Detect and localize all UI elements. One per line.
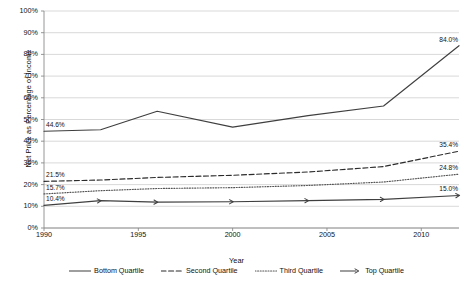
x-tick-label: 2010 [401, 231, 441, 239]
start-value-label-top-quartile: 10.4% [46, 195, 65, 202]
end-value-label-top-quartile: 15.0% [432, 185, 458, 192]
start-value-label-bottom-quartile: 44.6% [46, 121, 65, 128]
legend-label: Bottom Quartile [94, 266, 144, 275]
series-line-third-quartile [44, 174, 459, 194]
legend-item-third-quartile[interactable]: Third Quartile [255, 266, 324, 275]
y-tick-label: 90% [8, 29, 38, 37]
y-tick-label: 80% [8, 50, 38, 58]
legend-item-bottom-quartile[interactable]: Bottom Quartile [69, 266, 144, 275]
x-axis-title: Year [0, 256, 473, 265]
x-tick-label: 1990 [24, 231, 64, 239]
chart-legend: Bottom QuartileSecond QuartileThird Quar… [0, 266, 473, 275]
y-tick-label: 70% [8, 72, 38, 80]
end-value-label-third-quartile: 24.8% [432, 164, 458, 171]
y-tick-label: 40% [8, 137, 38, 145]
start-value-label-second-quartile: 21.5% [46, 171, 65, 178]
chart-container: Net Price as Percentage of Income Year 0… [0, 0, 473, 284]
legend-item-second-quartile[interactable]: Second Quartile [161, 266, 238, 275]
y-tick-label: 30% [8, 159, 38, 167]
y-tick-label: 20% [8, 181, 38, 189]
x-tick-label: 2000 [213, 231, 253, 239]
legend-key-solid-icon [69, 267, 91, 275]
legend-label: Second Quartile [186, 266, 238, 275]
plot-area [0, 0, 473, 284]
y-tick-label: 100% [8, 7, 38, 15]
end-value-label-second-quartile: 35.4% [432, 141, 458, 148]
legend-item-top-quartile[interactable]: Top Quartile [340, 266, 404, 275]
x-tick-label: 1995 [118, 231, 158, 239]
series-line-top-quartile [44, 195, 459, 205]
legend-label: Top Quartile [365, 266, 404, 275]
start-value-label-third-quartile: 15.7% [46, 184, 65, 191]
series-line-second-quartile [44, 151, 459, 181]
legend-key-dotted-icon [255, 267, 277, 275]
legend-label: Third Quartile [280, 266, 324, 275]
legend-key-solid-icon [340, 267, 362, 275]
series-line-bottom-quartile [44, 46, 459, 132]
y-tick-label: 10% [8, 202, 38, 210]
end-value-label-bottom-quartile: 84.0% [432, 36, 458, 43]
x-tick-label: 2005 [307, 231, 347, 239]
y-tick-label: 60% [8, 94, 38, 102]
y-axis-title: Net Price as Percentage of Income [24, 19, 33, 199]
legend-key-dashed-icon [161, 267, 183, 275]
y-tick-label: 50% [8, 116, 38, 124]
